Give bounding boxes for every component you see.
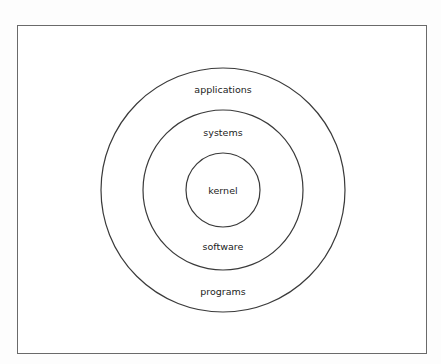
- concentric-circles-diagram: applications systems kernel software pro…: [0, 0, 441, 364]
- label-kernel: kernel: [208, 185, 237, 196]
- label-software: software: [203, 241, 244, 252]
- label-applications: applications: [194, 84, 251, 95]
- label-systems: systems: [203, 127, 242, 138]
- label-programs: programs: [200, 286, 246, 297]
- page: applications systems kernel software pro…: [0, 0, 441, 364]
